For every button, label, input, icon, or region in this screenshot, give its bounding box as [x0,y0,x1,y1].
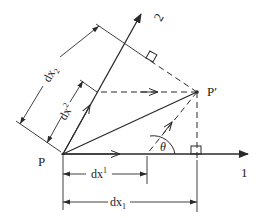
dashed-arrow-mark-2 [163,122,172,134]
label-dx-lower-1: dx1 [110,195,126,211]
label-point-p: P [38,154,45,169]
right-angle-marker-axis-1 [191,146,201,154]
extension-line-dx-lower-2 [96,24,146,58]
extension-line-axis2-origin [16,121,61,152]
label-theta: θ [160,140,166,154]
label-dx-upper-1: dx1 [91,166,107,181]
dimension-dx-lower-2-low [20,86,43,124]
diagram-canvas: P P′ 1 2 θ dx1 dx1 dx2 dx2 [0,0,262,218]
vector-p-to-p-prime [63,92,197,154]
dimension-dx-upper-2-high [70,81,83,102]
svg-text:dx2: dx2 [55,101,76,122]
label-dx-lower-2: dx2 [40,64,62,86]
label-dx-upper-2: dx2 [55,101,76,122]
dashed-parallel-to-axis-2 [147,92,197,154]
svg-text:dx1: dx1 [110,195,126,211]
oblique-coordinates-diagram: P P′ 1 2 θ dx1 dx1 dx2 dx2 [0,0,262,218]
label-point-p-prime: P′ [207,84,217,99]
point-p-prime [195,90,199,94]
label-axis-2: 2 [151,11,167,24]
dimension-dx-upper-2-low [47,116,62,143]
svg-text:dx2: dx2 [40,64,62,86]
dashed-perpendicular-to-axis-2 [146,58,197,92]
dimension-dx-lower-2-high [60,26,99,57]
svg-text:dx1: dx1 [91,166,107,181]
point-p [61,152,64,155]
right-angle-marker-axis-2 [146,51,157,62]
label-axis-1: 1 [241,165,248,180]
